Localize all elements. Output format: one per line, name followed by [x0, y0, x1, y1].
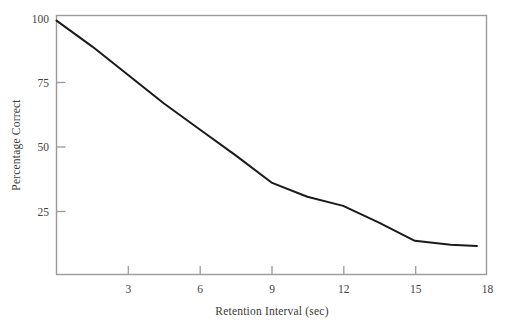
x-tick-label-18: 18: [482, 283, 494, 295]
y-tick-label-75: 75: [38, 77, 50, 89]
y-axis-ticks: [57, 83, 66, 212]
plot-frame: [57, 16, 487, 275]
retention-curve-line: [57, 21, 477, 246]
x-axis-ticks: [128, 266, 415, 275]
x-tick-label-12: 12: [338, 283, 350, 295]
x-tick-label-3: 3: [125, 283, 131, 295]
x-tick-label-15: 15: [410, 283, 422, 295]
x-axis-tick-labels: 3 6 9 12 15 18: [125, 283, 493, 295]
x-tick-label-6: 6: [197, 283, 203, 295]
x-axis-title: Retention Interval (sec): [215, 305, 328, 318]
forgetting-curve-figure: 100 75 50 25 Percentage Correct 3 6 9 12…: [0, 0, 505, 326]
x-tick-label-9: 9: [269, 283, 275, 295]
y-tick-label-25: 25: [38, 206, 50, 218]
y-tick-label-50: 50: [38, 141, 50, 153]
y-tick-label-100: 100: [32, 13, 50, 25]
y-axis-tick-labels: 100 75 50 25: [32, 13, 50, 218]
chart-canvas: 100 75 50 25 Percentage Correct 3 6 9 12…: [0, 0, 505, 326]
y-axis-title: Percentage Correct: [10, 99, 23, 191]
